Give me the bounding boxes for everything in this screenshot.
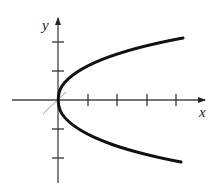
y-axis-label: y <box>40 17 49 33</box>
x-axis-label: x <box>198 104 206 120</box>
guide-line <box>43 92 66 114</box>
parabola-graph: y x <box>0 0 215 185</box>
